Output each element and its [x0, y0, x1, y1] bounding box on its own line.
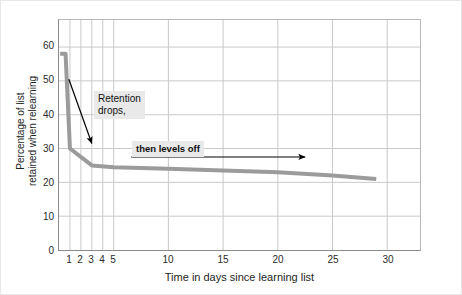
x-tick-label-20: 20	[272, 255, 283, 265]
y-axis-title-line2: retained when relearning	[27, 51, 39, 211]
annotation-then-levels-off: then levels off	[132, 141, 204, 157]
annotation-retention-drops: Retention drops,	[94, 91, 145, 119]
x-tick-label-30: 30	[382, 255, 393, 265]
y-tick-label-60: 60	[28, 41, 54, 51]
x-tick-label-3: 3	[88, 255, 94, 265]
x-tick-label-25: 25	[327, 255, 338, 265]
plot-area	[58, 19, 421, 251]
x-tick-label-10: 10	[162, 255, 173, 265]
x-axis-title: Time in days since learning list	[58, 271, 421, 283]
x-tick-label-4: 4	[99, 255, 105, 265]
y-tick-label-10: 10	[28, 212, 54, 222]
annotation-retention-drops-line1: Retention	[98, 93, 141, 104]
x-tick-label-1: 1	[66, 255, 72, 265]
forgetting-curve-figure: 0102030405060 Percentage of list retaine…	[0, 0, 462, 295]
annotation-retention-drops-line2: drops,	[98, 105, 126, 116]
y-axis-title-line1: Percentage of list	[15, 92, 26, 169]
annotation-then-levels-off-text: then levels off	[136, 143, 200, 154]
x-tick-label-15: 15	[217, 255, 228, 265]
y-tick-label-0: 0	[28, 246, 54, 256]
x-axis-tick-labels: 123451015202530	[58, 255, 421, 269]
annotation-arrows	[59, 20, 420, 250]
x-tick-label-2: 2	[77, 255, 83, 265]
y-axis-title: Percentage of list retained when relearn…	[15, 51, 39, 211]
x-tick-label-5: 5	[110, 255, 116, 265]
